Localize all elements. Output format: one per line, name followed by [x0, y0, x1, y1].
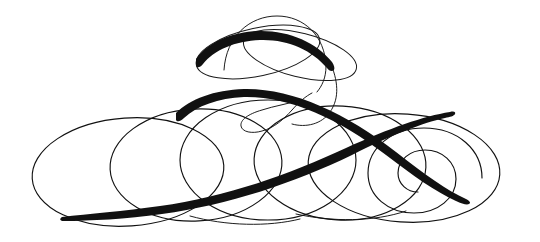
flourish-artboard: Calligraphic Flourish Ornament [0, 0, 540, 242]
flourish-illustration [0, 0, 540, 242]
